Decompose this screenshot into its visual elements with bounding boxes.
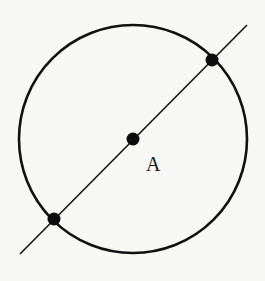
circle-diagram: A — [0, 0, 265, 281]
point-upper-right-intersection — [206, 54, 219, 67]
label-a: A — [146, 153, 161, 175]
point-lower-left-intersection — [48, 213, 61, 226]
point-center-a — [127, 133, 140, 146]
